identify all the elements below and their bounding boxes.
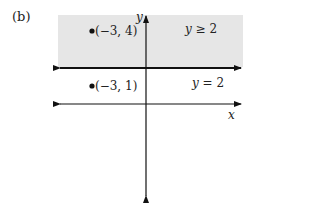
region-label-rest: ≥ 2 — [192, 22, 217, 36]
point-neg3-1 — [89, 83, 94, 88]
x-axis-label: x — [228, 108, 235, 122]
region-label: y ≥ 2 — [185, 22, 217, 36]
boundary-label: y = 2 — [192, 76, 224, 90]
y-axis-label: y — [136, 10, 143, 24]
point-label-neg3-1: (−3, 1) — [95, 79, 137, 93]
point-label-neg3-4: (−3, 4) — [95, 24, 137, 38]
region-label-var: y — [185, 22, 192, 36]
boundary-label-rest: = 2 — [199, 76, 224, 90]
point-neg3-4 — [89, 28, 94, 33]
boundary-label-var: y — [192, 76, 199, 90]
